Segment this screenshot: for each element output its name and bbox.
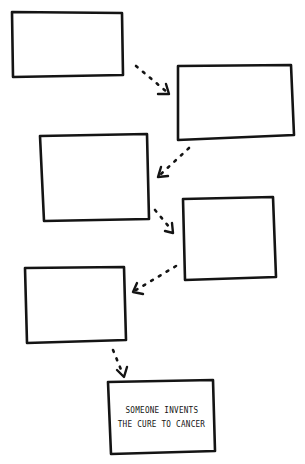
arrow-step4-to-step5: [133, 266, 176, 294]
arrow-step3-to-step4: [155, 210, 173, 233]
step-4-box: [183, 197, 276, 280]
outcome-label-line-2: THE CURE TO CANCER: [118, 417, 205, 431]
arrow-step2-to-step3: [158, 148, 189, 177]
arrow-step5-to-outcome: [113, 350, 127, 377]
step-2-box: [178, 65, 294, 140]
step-1-box: [12, 12, 123, 77]
step-3-box: [40, 134, 149, 221]
arrow-head-icon: [117, 367, 127, 377]
step-5-box: [25, 267, 126, 343]
outcome-label: SOMEONE INVENTS THE CURE TO CANCER: [108, 380, 215, 454]
arrow-step1-to-step2: [136, 66, 169, 94]
outcome-label-line-1: SOMEONE INVENTS: [125, 403, 198, 417]
